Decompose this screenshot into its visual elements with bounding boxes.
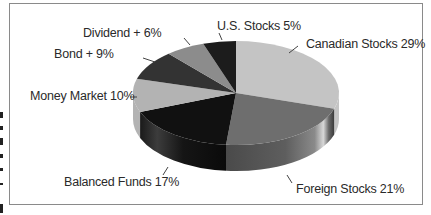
leader-line-foreign-stocks [287, 175, 292, 183]
label-canadian-stocks: Canadian Stocks 29% [306, 37, 425, 51]
pie-slices [133, 41, 339, 171]
label-dividend: Dividend + 6% [83, 26, 161, 40]
leader-line-balanced-funds [163, 167, 168, 175]
leader-line-bond [143, 58, 155, 62]
label-foreign-stocks: Foreign Stocks 21% [296, 182, 404, 196]
label-bond: Bond + 9% [54, 47, 114, 61]
label-u-s-stocks: U.S. Stocks 5% [217, 19, 301, 33]
label-money-market: Money Market 10% [30, 89, 135, 103]
leader-line-dividend [184, 38, 190, 45]
label-balanced-funds: Balanced Funds 17% [64, 175, 179, 189]
pie-chart: Canadian Stocks 29%Foreign Stocks 21%Bal… [0, 0, 431, 215]
leader-line-u-s-stocks [219, 33, 222, 40]
